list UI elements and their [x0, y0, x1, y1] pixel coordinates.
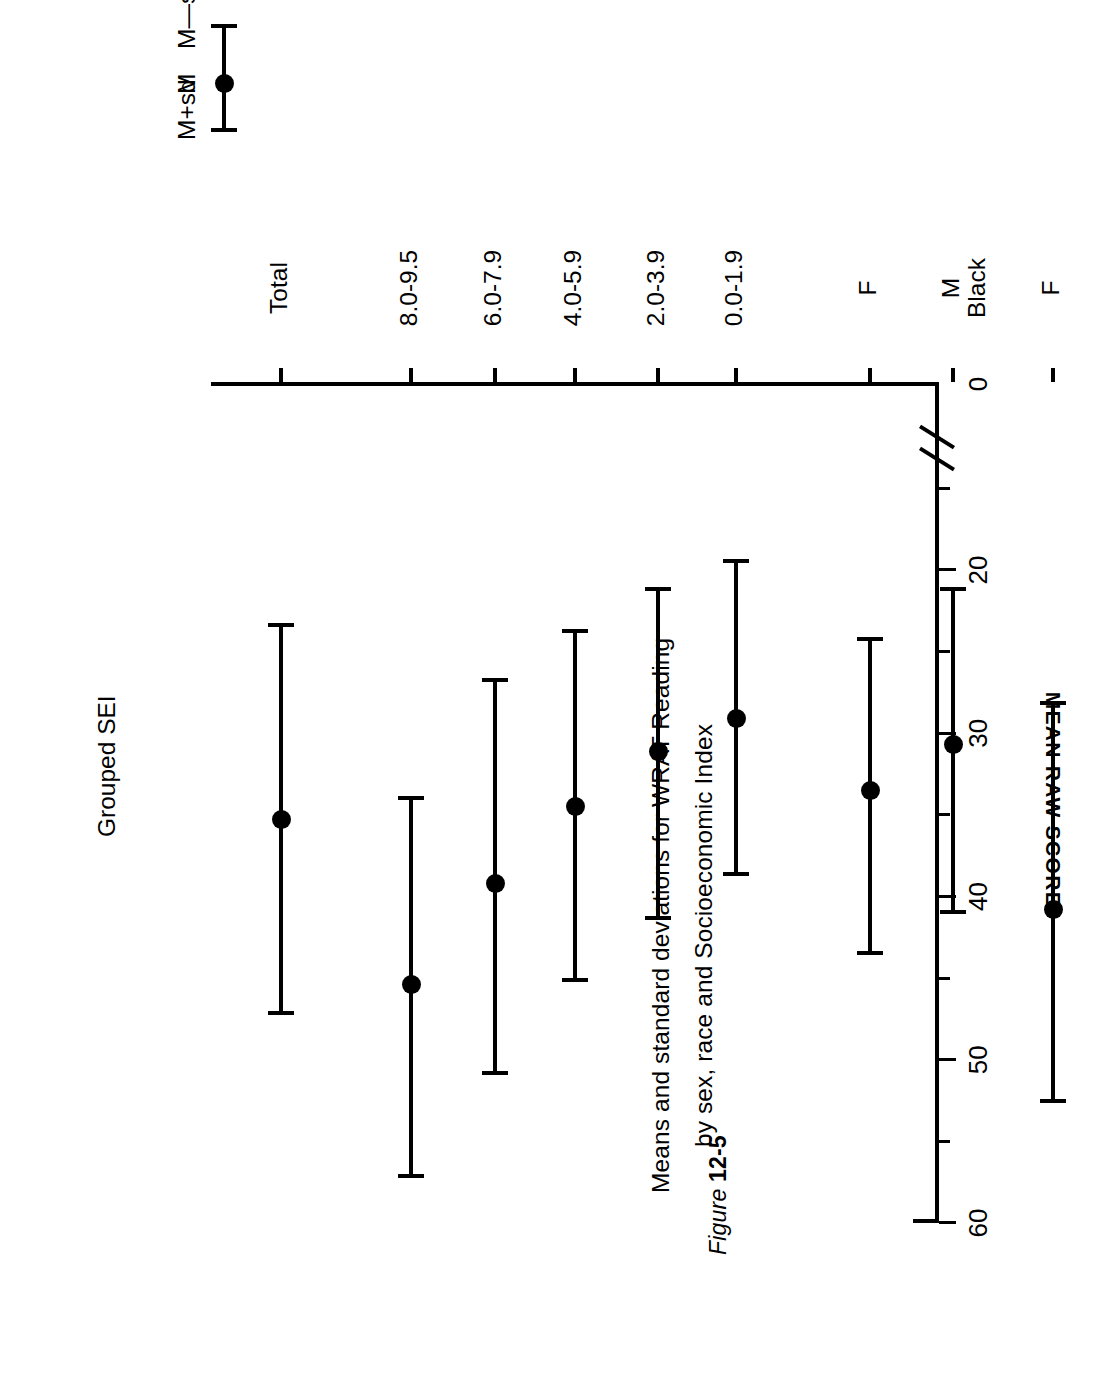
rotated-figure-stage: Figure 12-5 Means and standard deviation… [101, 77, 1001, 1307]
category-axis-title: Grouped SEI [93, 695, 121, 837]
mean-marker-dot [402, 975, 421, 994]
group-label-black: Black [963, 238, 991, 338]
error-bar-cap-low [645, 586, 671, 590]
error-bar-cap-low [268, 622, 294, 626]
category-axis-tick [734, 368, 738, 382]
mean-marker-dot [861, 780, 880, 799]
value-axis-tick [939, 976, 950, 979]
value-axis-tick [939, 1139, 950, 1142]
mean-marker-dot [649, 741, 668, 760]
category-axis-tick [493, 368, 497, 382]
value-axis-tick-label: 20 [963, 530, 994, 610]
error-bar-cap-low [398, 795, 424, 799]
category-tick-label: F [1037, 228, 1065, 348]
category-axis-tick [573, 368, 577, 382]
category-tick-label: 8.0-9.5 [395, 228, 423, 348]
category-tick-label: 6.0-7.9 [479, 228, 507, 348]
value-axis-tick-label: 50 [963, 1019, 994, 1099]
legend-cap-right [211, 24, 237, 28]
category-axis-tick [279, 368, 283, 382]
category-tick-label: Total [265, 228, 293, 348]
mean-marker-dot [566, 797, 585, 816]
value-axis-tick [939, 1058, 956, 1061]
error-bar-cap-low [1040, 700, 1066, 704]
mean-marker-dot [944, 735, 963, 754]
error-bar-cap-low [940, 586, 966, 590]
value-axis-tick [939, 1221, 956, 1224]
value-axis-tick [939, 650, 950, 653]
error-bar-cap-low [562, 629, 588, 633]
category-axis-line [211, 382, 939, 386]
category-axis-tick [951, 368, 955, 382]
category-tick-label: 2.0-3.9 [642, 228, 670, 348]
error-bar-cap-high [562, 978, 588, 982]
mean-marker-dot [272, 810, 291, 829]
error-bar-cap-high [940, 909, 966, 913]
category-tick-label: 0.0-1.9 [720, 228, 748, 348]
category-tick-label: F [854, 228, 882, 348]
category-axis-tick [656, 368, 660, 382]
error-bar-cap-high [268, 1011, 294, 1015]
value-axis-tick-label: 0 [963, 344, 994, 424]
category-axis-tick [868, 368, 872, 382]
category-tick-label: 4.0-5.9 [559, 228, 587, 348]
value-axis-tick-label: 30 [963, 693, 994, 773]
error-bar-cap-high [482, 1071, 508, 1075]
error-bar-cap-low [482, 678, 508, 682]
value-axis-tick [939, 813, 950, 816]
value-axis-line [935, 382, 939, 1223]
category-axis-tick [1051, 368, 1055, 382]
legend-label-low: M—sd [173, 0, 201, 49]
figure-page: Figure 12-5 Means and standard deviation… [0, 0, 1102, 1383]
value-axis-end-cap [913, 1219, 939, 1223]
value-axis-tick-label: 60 [963, 1183, 994, 1263]
mean-marker-dot [727, 709, 746, 728]
error-bar-cap-high [723, 872, 749, 876]
error-bar-cap-low [723, 558, 749, 562]
category-tick-label: M [937, 228, 965, 348]
value-axis-tick-label: 40 [963, 856, 994, 936]
error-bar-cap-high [645, 916, 671, 920]
value-axis-tick [939, 486, 950, 489]
category-axis-tick [409, 368, 413, 382]
mean-marker-dot [486, 873, 505, 892]
error-bar-cap-high [857, 950, 883, 954]
error-bar-cap-high [1040, 1099, 1066, 1103]
error-bar-cap-low [857, 637, 883, 641]
value-axis-tick [939, 568, 956, 571]
mean-marker-dot [1044, 900, 1063, 919]
error-bar-cap-high [398, 1174, 424, 1178]
plot-area: 60504030200 MEAN RAW SCORE Grouped SEI W… [101, 77, 1001, 1307]
